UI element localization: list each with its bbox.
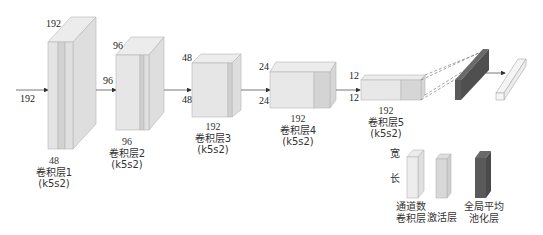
legend-gap-shape — [475, 151, 491, 198]
legend-activation-shape — [436, 154, 451, 198]
layer1-height-label: 192 — [46, 18, 61, 29]
layer3-name: 卷积层3 — [188, 133, 238, 145]
layer2-width-label: 96 — [103, 75, 113, 86]
legend-length-label: 长 — [390, 173, 400, 185]
layer5-width-label: 12 — [349, 92, 359, 103]
layer4-height-label: 24 — [259, 61, 269, 72]
legend-gap-caption: 全局平均 池化层 — [460, 201, 508, 224]
layer4-width-label: 24 — [259, 95, 269, 106]
layer1-name: 卷积层1 — [32, 167, 76, 179]
legend-gap-line2: 池化层 — [460, 213, 508, 225]
input-size-label: 192 — [20, 93, 35, 104]
legend-activation-label: 激活层 — [424, 212, 460, 224]
layer3-kernel: (k5s2) — [188, 144, 238, 156]
conv-layer-4-box — [270, 62, 336, 108]
output-block — [496, 59, 526, 100]
layer5-kernel: (k5s2) — [361, 128, 411, 140]
legend-gap-line1: 全局平均 — [460, 201, 508, 213]
layer1-kernel: (k5s2) — [32, 178, 76, 190]
layer2-name: 卷积层2 — [104, 148, 150, 160]
conv-layer-3-box — [192, 54, 241, 117]
legend-conv-line1: 通道数 — [393, 201, 429, 213]
conv-layer-2-box — [116, 37, 164, 130]
layer2-kernel: (k5s2) — [104, 159, 150, 171]
layer5-caption: 192 卷积层5 (k5s2) — [361, 105, 411, 140]
layer5-channels: 192 — [361, 105, 411, 117]
conv-layer-1-box — [48, 17, 96, 149]
layer4-channels: 192 — [273, 113, 323, 125]
layer3-channels: 192 — [188, 121, 238, 133]
layer2-height-label: 96 — [113, 40, 123, 51]
layer5-height-label: 12 — [349, 70, 359, 81]
layer2-channels: 96 — [104, 136, 150, 148]
layer3-height-label: 48 — [182, 52, 192, 63]
layer4-name: 卷积层4 — [273, 125, 323, 137]
layer3-caption: 192 卷积层3 (k5s2) — [188, 121, 238, 156]
conv-layer-5-box — [361, 75, 425, 100]
gap-block — [455, 49, 489, 100]
cnn-architecture-diagram — [0, 0, 543, 235]
layer1-caption: 48 卷积层1 (k5s2) — [32, 155, 76, 190]
legend-width-label: 宽 — [390, 148, 400, 160]
layer2-caption: 96 卷积层2 (k5s2) — [104, 136, 150, 171]
layer5-name: 卷积层5 — [361, 117, 411, 129]
layer3-width-label: 48 — [182, 94, 192, 105]
layer4-kernel: (k5s2) — [273, 136, 323, 148]
legend-conv-shape — [407, 150, 424, 198]
layer4-caption: 192 卷积层4 (k5s2) — [273, 113, 323, 148]
layer1-channels: 48 — [32, 155, 76, 167]
legend-activation-caption: 激活层 — [424, 212, 460, 224]
